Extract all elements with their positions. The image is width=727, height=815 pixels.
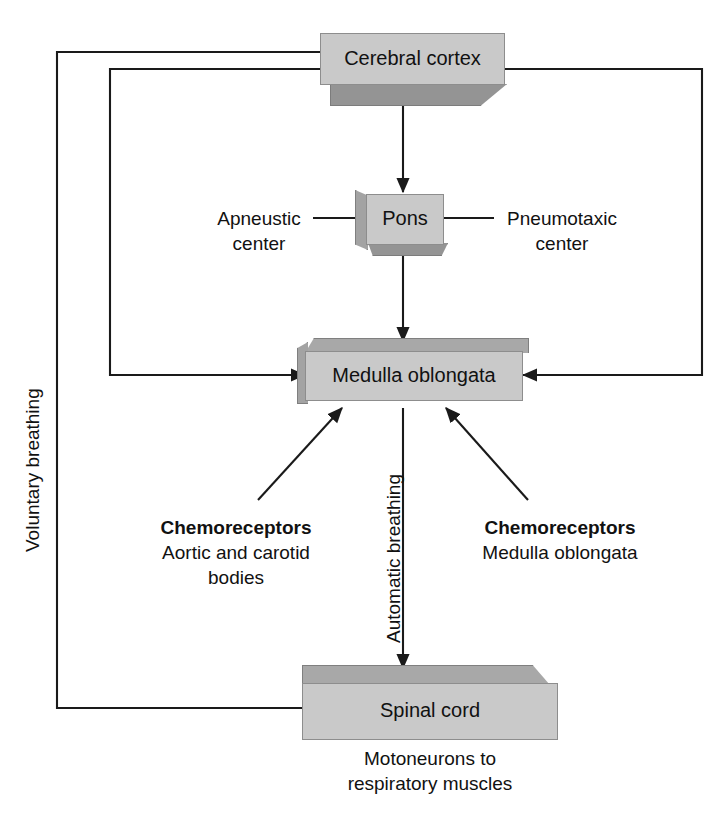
medulla-oblongata-box[interactable]: Medulla oblongata xyxy=(305,351,523,401)
pons-label: Pons xyxy=(367,207,443,230)
respiratory-control-diagram: Respiratory control centers xyxy=(0,0,727,815)
line-peripheral-chemoreceptors-to-medulla xyxy=(258,408,342,500)
line-cortex-to-spinal-cord xyxy=(57,52,320,708)
peripheral-chemoreceptors-title: Chemoreceptors xyxy=(128,515,344,540)
motoneurons-label: Motoneurons to respiratory muscles xyxy=(280,746,580,796)
medulla-oblongata-label: Medulla oblongata xyxy=(306,364,522,387)
voluntary-breathing-label: Voluntary breathing xyxy=(22,388,44,552)
cerebral-cortex-shadow xyxy=(330,84,507,106)
line-central-chemoreceptors-to-medulla xyxy=(446,408,528,500)
spinal-cord-top-face xyxy=(302,665,550,685)
pneumotaxic-center-label: Pneumotaxic center xyxy=(492,206,632,256)
peripheral-chemoreceptors-detail: Aortic and carotid bodies xyxy=(128,540,344,590)
cerebral-cortex-label: Cerebral cortex xyxy=(321,47,504,70)
spinal-cord-label: Spinal cord xyxy=(303,699,557,722)
automatic-breathing-label: Automatic breathing xyxy=(383,474,405,643)
central-chemoreceptors-title: Chemoreceptors xyxy=(452,515,668,540)
pons-box[interactable]: Pons xyxy=(366,194,444,245)
apneustic-center-label: Apneustic center xyxy=(200,206,318,256)
spinal-cord-box[interactable]: Spinal cord xyxy=(302,683,558,740)
central-chemoreceptors-detail: Medulla oblongata xyxy=(452,540,668,565)
cerebral-cortex-box[interactable]: Cerebral cortex xyxy=(320,33,505,85)
